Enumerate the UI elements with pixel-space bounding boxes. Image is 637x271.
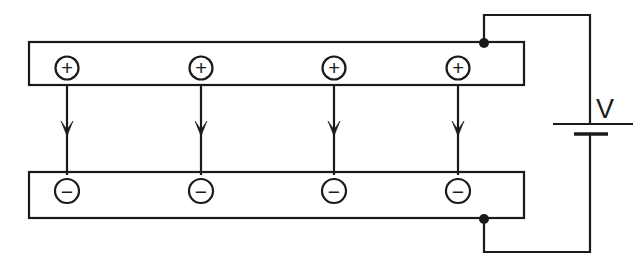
negative-charge-glyph-2: − [195, 180, 207, 203]
bottom-terminal-junction [479, 214, 489, 224]
diagram-canvas: ++++−−−−V [0, 0, 637, 271]
positive-charge-glyph-3: + [328, 57, 340, 79]
voltage-label: V [596, 94, 614, 124]
negative-charge-glyph-3: − [328, 180, 340, 203]
positive-charge-glyph-4: + [452, 57, 464, 79]
negative-charge-glyph-4: − [452, 180, 464, 203]
capacitor-circuit-diagram: ++++−−−−V [0, 0, 637, 271]
positive-charge-glyph-1: + [61, 57, 73, 79]
top-terminal-junction [479, 38, 489, 48]
negative-charge-glyph-1: − [61, 180, 73, 203]
positive-charge-glyph-2: + [195, 57, 207, 79]
